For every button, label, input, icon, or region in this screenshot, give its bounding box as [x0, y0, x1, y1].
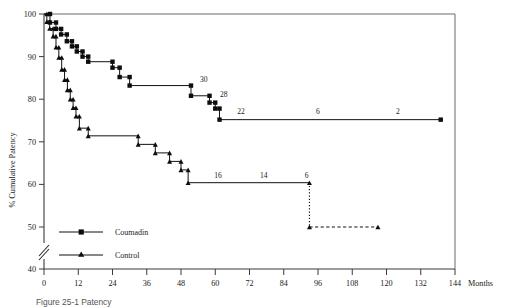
at-risk-label: 22: [237, 107, 245, 116]
coumadin-event-marker: [59, 27, 63, 31]
y-tick-label-60: 60: [28, 180, 36, 189]
legend: Coumadin Control: [59, 228, 148, 260]
coumadin-event-marker: [80, 49, 84, 53]
coumadin-event-marker: [65, 32, 69, 36]
x-tick-label-144: 144: [449, 279, 461, 288]
control-tail-end-marker: [375, 225, 380, 230]
coumadin-markers: [48, 12, 443, 122]
coumadin-event-marker: [86, 60, 90, 64]
at-risk-label: 6: [305, 171, 309, 180]
y-axis-labels: 405060708090100: [24, 10, 36, 274]
x-tick-label-96: 96: [314, 279, 322, 288]
x-tick-label-108: 108: [346, 279, 358, 288]
coumadin-event-marker: [189, 83, 193, 87]
x-tick-label-72: 72: [245, 279, 253, 288]
x-tick-label-84: 84: [280, 279, 288, 288]
x-tick-label-24: 24: [108, 279, 116, 288]
y-axis: 405060708090100: [24, 10, 51, 274]
coumadin-event-marker: [80, 54, 84, 58]
axis-break-symbol: [38, 243, 51, 260]
coumadin-event-marker: [213, 100, 217, 104]
y-axis-title: % Cumulative Patency: [8, 132, 17, 208]
coumadin-event-marker: [127, 75, 131, 79]
coumadin-step-line: [44, 14, 441, 120]
x-axis-ticks: [44, 269, 455, 275]
legend-label-control: Control: [115, 251, 140, 260]
x-axis-labels: 01224364860728496108120132144: [42, 279, 461, 288]
at-risk-label: 6: [316, 107, 320, 116]
y-axis-ticks: [39, 14, 44, 269]
at-risk-label: 28: [220, 90, 228, 99]
y-tick-label-50: 50: [28, 223, 36, 232]
coumadin-event-marker: [54, 20, 58, 24]
y-tick-label-90: 90: [28, 53, 36, 62]
kaplan-meier-chart: 405060708090100 012243648607284961081201…: [0, 0, 508, 308]
coumadin-event-marker: [207, 94, 211, 98]
at-risk-label: 30: [200, 75, 208, 84]
coumadin-event-marker: [189, 94, 193, 98]
control-at-risk-labels: 16146: [214, 171, 308, 180]
legend-entry-control[interactable]: Control: [59, 251, 140, 260]
coumadin-event-marker: [70, 39, 74, 43]
series-coumadin: 30282262: [44, 12, 443, 122]
y-tick-label-100: 100: [24, 10, 36, 19]
coumadin-event-marker: [75, 49, 79, 53]
x-tick-label-60: 60: [211, 279, 219, 288]
x-tick-label-120: 120: [380, 279, 392, 288]
at-risk-label: 14: [260, 171, 268, 180]
x-tick-label-132: 132: [415, 279, 427, 288]
coumadin-event-marker: [59, 32, 63, 36]
coumadin-event-marker: [86, 54, 90, 58]
legend-swatch-coumadin-marker: [79, 229, 84, 234]
coumadin-event-marker: [127, 83, 131, 87]
coumadin-event-marker: [217, 117, 221, 121]
at-risk-label: 2: [396, 107, 400, 116]
figure-caption: Figure 25-1 Patency: [36, 297, 112, 307]
coumadin-event-marker: [117, 65, 121, 69]
y-tick-label-80: 80: [28, 95, 36, 104]
x-tick-label-0: 0: [42, 279, 46, 288]
x-axis-title: Months: [468, 279, 493, 288]
coumadin-event-marker: [213, 106, 217, 110]
x-tick-label-48: 48: [177, 279, 185, 288]
coumadin-event-marker: [439, 117, 443, 121]
coumadin-event-marker: [70, 44, 74, 48]
coumadin-event-marker: [75, 44, 79, 48]
x-tick-label-36: 36: [143, 279, 151, 288]
legend-label-coumadin: Coumadin: [115, 228, 148, 237]
legend-swatch-control-marker: [78, 252, 84, 257]
coumadin-event-marker: [117, 75, 121, 79]
y-tick-label-40: 40: [28, 265, 36, 274]
coumadin-event-marker: [110, 60, 114, 64]
coumadin-event-marker: [65, 39, 69, 43]
x-axis: 01224364860728496108120132144: [42, 269, 461, 288]
y-tick-label-70: 70: [28, 138, 36, 147]
coumadin-at-risk-labels: 30282262: [200, 75, 400, 116]
x-tick-label-12: 12: [74, 279, 82, 288]
plot-frame: [44, 14, 455, 269]
coumadin-event-marker: [207, 100, 211, 104]
at-risk-label: 16: [214, 171, 222, 180]
figure-root: 405060708090100 012243648607284961081201…: [0, 0, 508, 308]
control-step-line: [44, 14, 309, 183]
coumadin-event-marker: [110, 65, 114, 69]
legend-entry-coumadin[interactable]: Coumadin: [59, 228, 148, 237]
coumadin-event-marker: [217, 106, 221, 110]
series-control: 16146: [44, 12, 380, 230]
control-markers: [44, 12, 312, 185]
